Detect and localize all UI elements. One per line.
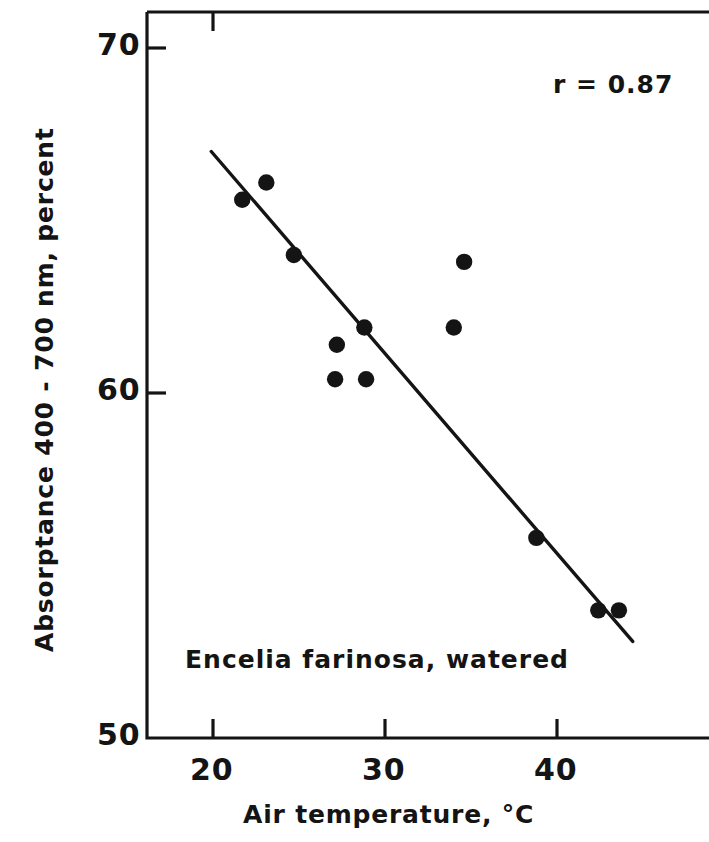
correlation-annotation: r = 0.87: [553, 70, 673, 99]
data-point: [611, 602, 627, 618]
data-point: [590, 602, 606, 618]
y-axis-ticks: [147, 48, 166, 393]
data-point: [356, 319, 372, 335]
data-point: [358, 371, 374, 387]
data-point: [234, 192, 250, 208]
data-point: [286, 247, 302, 263]
axis-frame: [147, 12, 709, 738]
data-point: [258, 174, 274, 190]
x-tick-label-20: 20: [190, 752, 234, 787]
data-point: [456, 254, 472, 270]
scatter-plot-figure: 70 60 50 20 30 40 Air temperature, °C Ab…: [0, 0, 709, 842]
data-point: [329, 337, 345, 353]
x-axis-title: Air temperature, °C: [243, 800, 534, 829]
x-tick-label-40: 40: [534, 752, 578, 787]
plot-canvas: [0, 0, 709, 842]
x-axis-ticks: [213, 12, 557, 738]
species-annotation: Encelia farinosa, watered: [185, 645, 569, 674]
data-point-group: [234, 174, 627, 618]
y-tick-label-50: 50: [97, 717, 141, 752]
y-axis-title: Absorptance 400 - 700 nm, percent: [30, 127, 59, 652]
y-tick-label-70: 70: [97, 27, 141, 62]
regression-line: [211, 152, 632, 642]
y-tick-label-60: 60: [97, 372, 141, 407]
data-point: [446, 319, 462, 335]
data-point: [327, 371, 343, 387]
x-tick-label-30: 30: [362, 752, 406, 787]
axis-spines-left-bottom: [147, 12, 709, 738]
data-point: [528, 530, 544, 546]
